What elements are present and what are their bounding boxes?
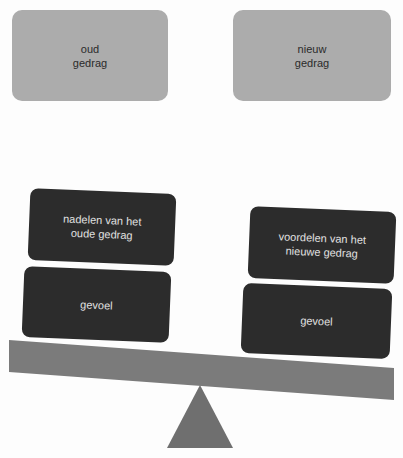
- fulcrum-triangle-icon: [167, 385, 233, 448]
- balance-scale: [0, 0, 403, 458]
- diagram-canvas: oud gedrag nieuw gedrag nadelen van het …: [0, 0, 403, 458]
